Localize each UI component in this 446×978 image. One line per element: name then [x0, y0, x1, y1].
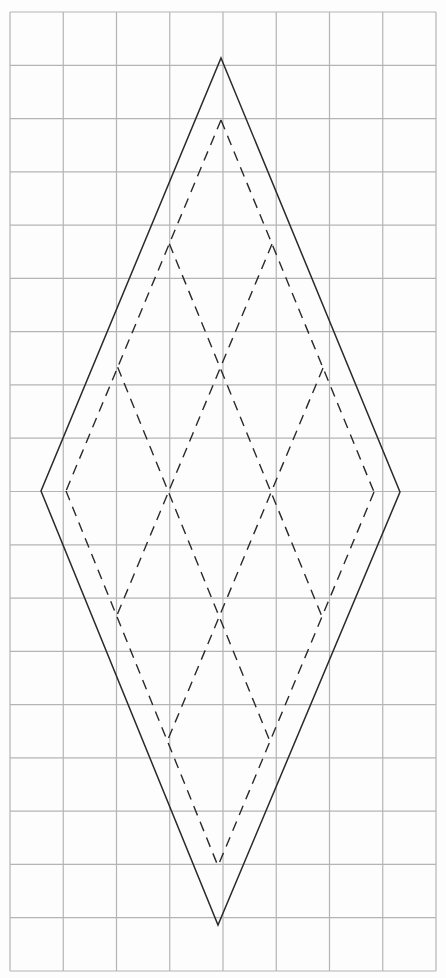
diagram-canvas: [0, 0, 446, 978]
dashed-lattice-line: [221, 120, 374, 492]
dashed-lattice-line: [118, 367, 270, 741]
grid-paper-diagram: [0, 0, 446, 978]
dashed-lattice-line: [66, 120, 221, 491]
dashed-lattice-line: [66, 491, 218, 866]
inner-dashed-rhombus-lattice: [66, 120, 374, 866]
dashed-lattice-line: [169, 244, 322, 617]
dashed-lattice-line: [117, 244, 272, 616]
dashed-lattice-line: [218, 492, 374, 866]
background-grid: [10, 12, 436, 971]
dashed-lattice-line: [167, 368, 323, 741]
